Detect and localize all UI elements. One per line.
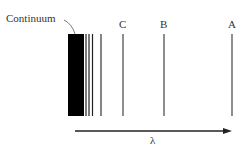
continuum-label: Continuum (6, 13, 56, 24)
wavelength-label: λ (150, 135, 155, 146)
line-c-label: C (119, 19, 126, 30)
spectrum-diagram: Continuum C B A λ (0, 0, 252, 147)
continuum-pointer (64, 20, 75, 34)
arrowhead-icon (223, 128, 232, 134)
continuum-block (68, 34, 84, 116)
line-a-label: A (228, 19, 236, 30)
line-b-label: B (160, 19, 167, 30)
